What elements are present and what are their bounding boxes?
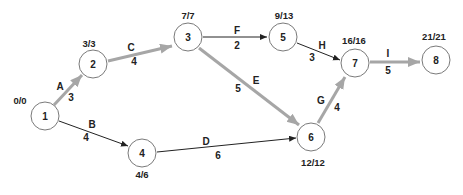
edge-duration-label: 2 [234, 40, 240, 51]
edge-activity-label: B [88, 119, 95, 130]
edge-activity-label: H [318, 40, 325, 51]
edge-activity-label: E [253, 75, 260, 86]
node-number: 4 [139, 148, 145, 159]
edge-duration-label: 6 [215, 150, 221, 161]
edge-activity-label: D [202, 136, 209, 147]
node-number: 6 [308, 132, 314, 143]
node-4: 4 4/6 [128, 139, 156, 180]
edge-A: A 3 [54, 75, 82, 105]
edge-I: I 5 [370, 48, 420, 76]
edge-activity-label: A [56, 81, 63, 92]
node-number: 1 [42, 111, 48, 122]
network-diagram: A 3 B 4 C 4 D 6 E 5 F 2 G 4 H 3 I 5 [0, 0, 463, 195]
node-times: 21/21 [422, 31, 446, 42]
node-8: 8 21/21 [422, 31, 450, 74]
node-7: 7 16/16 [341, 35, 369, 77]
node-2: 2 3/3 [79, 38, 107, 78]
node-5: 5 9/13 [269, 10, 297, 51]
edge-D: D 6 [157, 136, 296, 161]
node-3: 3 7/7 [174, 10, 202, 51]
edge-G: G 4 [317, 77, 345, 123]
edge-duration-label: 4 [334, 102, 340, 113]
edge-E: E 5 [199, 48, 299, 125]
edge-duration-label: 4 [83, 132, 89, 143]
edge-activity-label: F [234, 25, 240, 36]
edge-duration-label: 3 [309, 52, 315, 63]
node-1: 1 0/0 [13, 95, 59, 130]
node-times: 7/7 [181, 10, 194, 21]
node-times: 12/12 [301, 157, 325, 168]
edge-H: H 3 [297, 40, 340, 63]
edge-duration-label: 5 [385, 65, 391, 76]
edge-F: F 2 [203, 25, 267, 51]
node-number: 8 [433, 55, 439, 66]
edge-activity-label: I [387, 48, 390, 59]
edge-C: C 4 [108, 42, 172, 67]
node-number: 3 [185, 32, 191, 43]
node-times: 4/6 [135, 169, 148, 180]
edge-activity-label: C [127, 42, 134, 53]
node-times: 3/3 [82, 38, 95, 49]
edge-activity-label: G [317, 95, 325, 106]
edge-duration-label: 4 [131, 56, 137, 67]
node-number: 2 [90, 59, 96, 70]
node-6: 6 12/12 [297, 123, 325, 168]
edge-duration-label: 5 [235, 83, 241, 94]
node-times: 0/0 [13, 95, 26, 106]
node-times: 16/16 [342, 35, 366, 46]
node-times: 9/13 [275, 10, 294, 21]
node-number: 7 [352, 58, 358, 69]
edge-B: B 4 [59, 119, 128, 146]
edge-duration-label: 3 [68, 92, 74, 103]
node-number: 5 [280, 32, 286, 43]
